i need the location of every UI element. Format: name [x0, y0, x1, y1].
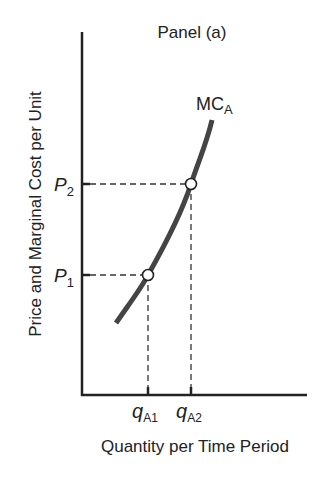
y-axis-label: Price and Marginal Cost per Unit — [26, 91, 45, 337]
point-2 — [186, 179, 197, 190]
x-axis-label: Quantity per Time Period — [101, 437, 289, 456]
y-tick-label-p2: P2 — [54, 174, 74, 199]
chart-title: Panel (a) — [158, 23, 227, 42]
y-tick-label-p1: P1 — [54, 265, 74, 290]
x-tick-label-qa2: qA2 — [176, 400, 202, 425]
mc-curve — [116, 120, 212, 323]
series-label: MCA — [196, 94, 233, 117]
x-tick-label-qa1: qA1 — [132, 400, 158, 425]
point-1 — [143, 270, 154, 281]
mc-chart: Panel (a) MCA P2 P1 qA1 qA2 Quantity per… — [0, 0, 323, 486]
